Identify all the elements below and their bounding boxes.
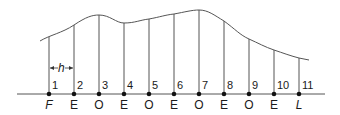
ordinate-number: 5 [152, 79, 158, 91]
ordinate-dot [97, 92, 102, 97]
ordinate-dot [147, 92, 152, 97]
ordinate-type-label: O [144, 98, 153, 112]
ordinate-3: 3O [94, 15, 108, 112]
ordinate-dot [72, 92, 77, 97]
ordinate-number: 4 [127, 79, 133, 91]
ordinate-type-label: O [94, 98, 103, 112]
ordinate-dot [122, 92, 127, 97]
ordinate-number: 1 [52, 79, 58, 91]
ordinate-diagram: 1F2E3O4E5O6E7O8E9O10E11L h [0, 0, 340, 115]
ordinate-8: 8E [220, 21, 233, 112]
ordinate-number: 8 [227, 79, 233, 91]
ordinate-dot [172, 92, 177, 97]
diagram-canvas: 1F2E3O4E5O6E7O8E9O10E11L h [0, 0, 340, 115]
ordinate-4: 4E [120, 23, 133, 112]
ordinate-5: 5O [144, 19, 158, 112]
ordinate-type-label: E [270, 98, 278, 112]
ordinate-type-label: L [296, 98, 303, 112]
ordinate-type-label: F [45, 98, 53, 112]
ordinate-number: 9 [252, 79, 258, 91]
ordinate-type-label: E [170, 98, 178, 112]
ordinate-type-label: O [194, 98, 203, 112]
ordinate-10: 10E [270, 50, 289, 112]
ordinates-group: 1F2E3O4E5O6E7O8E9O10E11L [45, 10, 313, 112]
ordinate-number: 10 [277, 79, 289, 91]
ordinate-type-label: E [220, 98, 228, 112]
ordinate-dot [272, 92, 277, 97]
ordinate-dot [222, 92, 227, 97]
ordinate-type-label: E [120, 98, 128, 112]
ordinate-7: 7O [194, 10, 208, 112]
ordinate-number: 2 [77, 79, 83, 91]
ordinate-dot [47, 92, 52, 97]
ordinate-number: 6 [177, 79, 183, 91]
spacing-indicator: h [50, 61, 73, 75]
ordinate-type-label: O [244, 98, 253, 112]
ordinate-1: 1F [45, 37, 58, 112]
ordinate-number: 11 [302, 79, 313, 91]
ordinate-dot [297, 92, 302, 97]
spacing-label: h [58, 61, 65, 75]
ordinate-number: 7 [202, 79, 208, 91]
ordinate-dot [247, 92, 252, 97]
ordinate-number: 3 [102, 79, 108, 91]
ordinate-9: 9O [244, 39, 258, 112]
ordinate-6: 6E [170, 14, 183, 112]
ordinate-11: 11L [296, 58, 314, 112]
ordinate-dot [197, 92, 202, 97]
ordinate-type-label: E [70, 98, 78, 112]
